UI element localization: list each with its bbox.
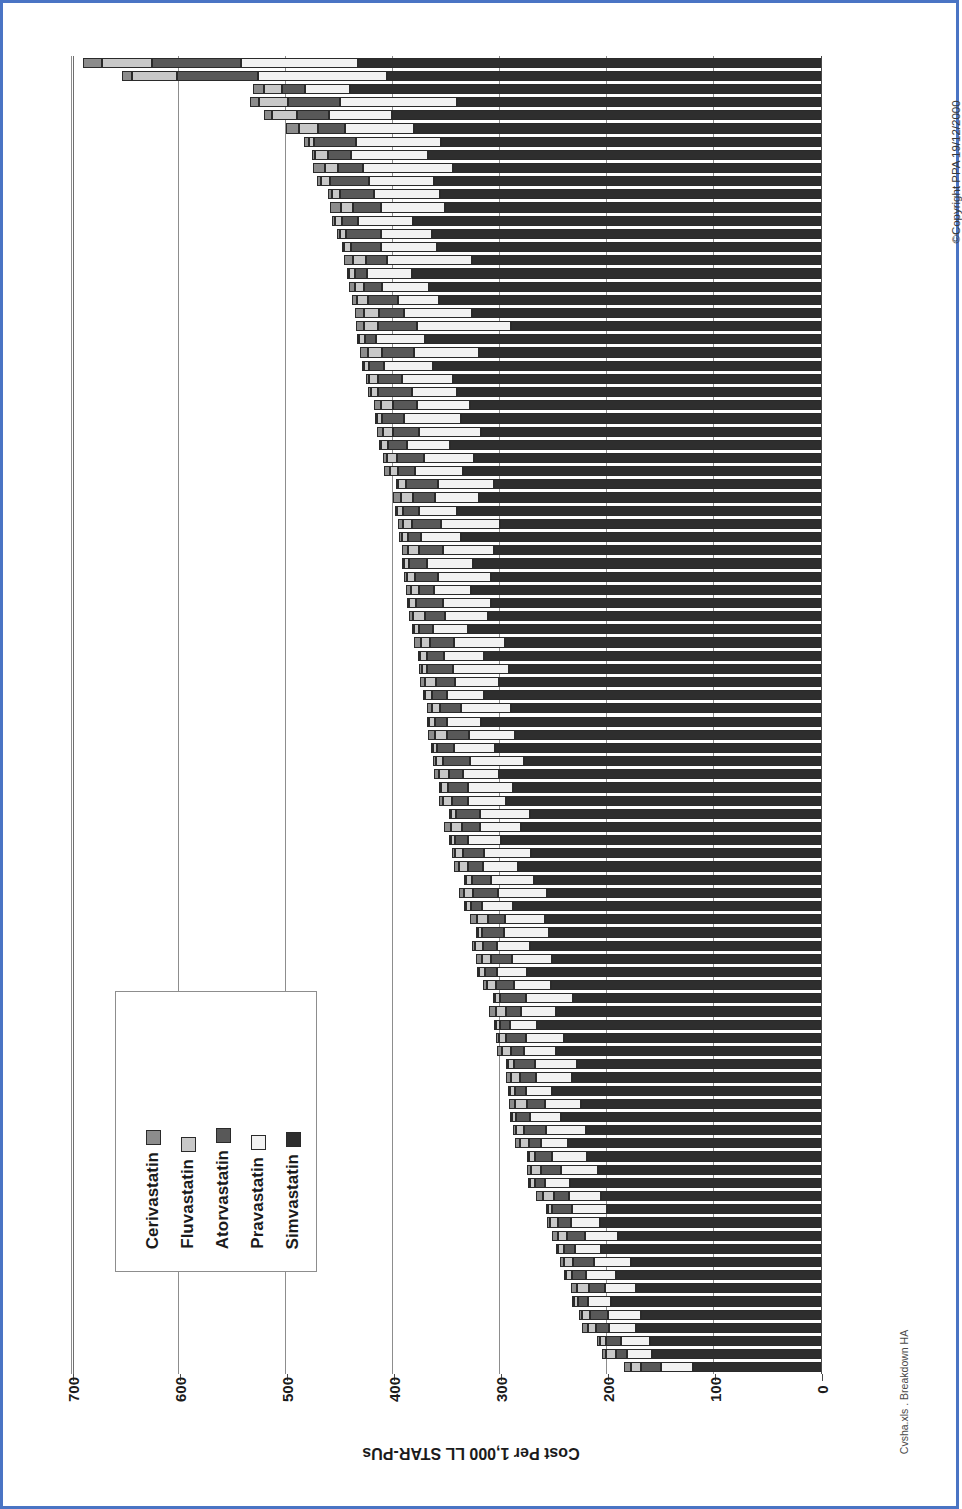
bar-segment-simvastatin bbox=[537, 1020, 821, 1030]
legend-item-fluvastatin[interactable]: Fluvastatin bbox=[173, 1137, 203, 1249]
bar-segment-atorvastatin bbox=[473, 888, 498, 898]
bar-row bbox=[304, 137, 821, 147]
bar-segment-simvastatin bbox=[434, 176, 821, 186]
bar-segment-simvastatin bbox=[499, 769, 821, 779]
bar-segment-fluvastatin bbox=[364, 308, 379, 318]
bar-segment-atorvastatin bbox=[500, 993, 526, 1003]
bar-segment-pravastatin bbox=[504, 927, 549, 937]
bar-segment-fluvastatin bbox=[398, 479, 405, 489]
bar-segment-fluvastatin bbox=[451, 822, 462, 832]
bar-segment-pravastatin bbox=[444, 651, 484, 661]
bar-segment-pravastatin bbox=[351, 150, 428, 160]
bar-row bbox=[375, 413, 821, 423]
bar-segment-simvastatin bbox=[577, 1059, 821, 1069]
bar-segment-atorvastatin bbox=[393, 400, 417, 410]
bar-segment-atorvastatin bbox=[472, 875, 491, 885]
bar-row bbox=[342, 242, 821, 252]
legend-label: Fluvastatin bbox=[178, 1159, 198, 1249]
bar-segment-atorvastatin bbox=[177, 71, 258, 81]
bar-segment-pravastatin bbox=[381, 202, 445, 212]
bar-segment-pravastatin bbox=[605, 1283, 636, 1293]
bar-segment-pravastatin bbox=[454, 743, 495, 753]
bar-row bbox=[597, 1336, 821, 1346]
bar-row bbox=[459, 888, 821, 898]
bar-segment-pravastatin bbox=[545, 1099, 581, 1109]
bar-row bbox=[356, 321, 821, 331]
bar-segment-pravastatin bbox=[443, 545, 493, 555]
bar-row bbox=[428, 730, 821, 740]
bar-segment-simvastatin bbox=[581, 1099, 821, 1109]
bar-segment-atorvastatin bbox=[393, 427, 419, 437]
bar-row bbox=[427, 717, 821, 727]
bar-segment-atorvastatin bbox=[412, 519, 441, 529]
bar-segment-atorvastatin bbox=[152, 58, 241, 68]
bar-segment-simvastatin bbox=[457, 387, 821, 397]
bar-segment-pravastatin bbox=[497, 967, 527, 977]
bar-segment-simvastatin bbox=[473, 558, 821, 568]
bar-segment-fluvastatin bbox=[420, 651, 427, 661]
bar-segment-simvastatin bbox=[515, 730, 821, 740]
bar-row bbox=[383, 453, 821, 463]
bar-segment-atorvastatin bbox=[606, 1336, 621, 1346]
bar-segment-pravastatin bbox=[419, 427, 481, 437]
chart-legend: CerivastatinFluvastatinAtorvastatinPrava… bbox=[115, 991, 317, 1272]
bar-row bbox=[344, 255, 821, 265]
bar-row bbox=[527, 1165, 821, 1175]
bar-segment-fluvastatin bbox=[299, 123, 318, 133]
bar-segment-pravastatin bbox=[374, 189, 440, 199]
bar-segment-pravastatin bbox=[382, 282, 429, 292]
legend-item-cerivastatin[interactable]: Cerivastatin bbox=[138, 1130, 168, 1249]
bar-segment-atorvastatin bbox=[491, 954, 511, 964]
bar-segment-pravastatin bbox=[441, 519, 500, 529]
bar-segment-simvastatin bbox=[531, 848, 821, 858]
bar-segment-pravastatin bbox=[447, 717, 481, 727]
bar-segment-fluvastatin bbox=[383, 427, 393, 437]
bar-segment-pravastatin bbox=[340, 97, 458, 107]
bar-segment-pravastatin bbox=[447, 690, 484, 700]
bar-segment-fluvastatin bbox=[515, 1099, 527, 1109]
tick-label-200: 200 bbox=[600, 1370, 617, 1410]
legend-item-pravastatin[interactable]: Pravastatin bbox=[243, 1135, 273, 1249]
legend-swatch-icon bbox=[216, 1128, 231, 1143]
bar-segment-simvastatin bbox=[552, 954, 821, 964]
bar-segment-pravastatin bbox=[572, 1204, 607, 1214]
bar-segment-simvastatin bbox=[521, 822, 821, 832]
bar-segment-fluvastatin bbox=[369, 374, 378, 384]
bar-segment-pravastatin bbox=[381, 242, 437, 252]
bar-segment-fluvastatin bbox=[408, 545, 419, 555]
legend-item-simvastatin[interactable]: Simvastatin bbox=[278, 1132, 308, 1249]
bar-segment-pravastatin bbox=[376, 334, 425, 344]
bar-segment-pravastatin bbox=[569, 1191, 601, 1201]
bar-segment-atorvastatin bbox=[447, 730, 469, 740]
bar-segment-atorvastatin bbox=[529, 1138, 541, 1148]
bar-segment-atorvastatin bbox=[506, 1006, 521, 1016]
bar-segment-pravastatin bbox=[524, 1046, 556, 1056]
bar-segment-pravastatin bbox=[585, 1231, 618, 1241]
bar-row bbox=[560, 1257, 821, 1267]
bar-segment-simvastatin bbox=[472, 308, 821, 318]
bar-segment-pravastatin bbox=[404, 413, 462, 423]
bar-row bbox=[366, 374, 821, 384]
bar-segment-atorvastatin bbox=[496, 980, 514, 990]
bar-row bbox=[536, 1191, 821, 1201]
bar-row bbox=[464, 901, 821, 911]
bar-segment-fluvastatin bbox=[411, 585, 418, 595]
bar-segment-simvastatin bbox=[551, 980, 821, 990]
bar-row bbox=[497, 1046, 821, 1056]
bar-row bbox=[420, 677, 821, 687]
bar-segment-atorvastatin bbox=[364, 282, 382, 292]
bar-segment-atorvastatin bbox=[436, 677, 455, 687]
bar-row bbox=[564, 1270, 821, 1280]
tick-label-300: 300 bbox=[493, 1370, 510, 1410]
bar-row bbox=[571, 1283, 821, 1293]
bar-segment-simvastatin bbox=[572, 1072, 821, 1082]
legend-item-atorvastatin[interactable]: Atorvastatin bbox=[208, 1128, 238, 1249]
bar-row bbox=[404, 572, 821, 582]
bar-segment-atorvastatin bbox=[564, 1244, 575, 1254]
bar-segment-simvastatin bbox=[570, 1178, 821, 1188]
bar-segment-simvastatin bbox=[425, 334, 821, 344]
bar-segment-atorvastatin bbox=[452, 796, 468, 806]
bar-row bbox=[496, 1033, 821, 1043]
bar-segment-atorvastatin bbox=[432, 690, 447, 700]
bar-segment-pravastatin bbox=[661, 1362, 693, 1372]
